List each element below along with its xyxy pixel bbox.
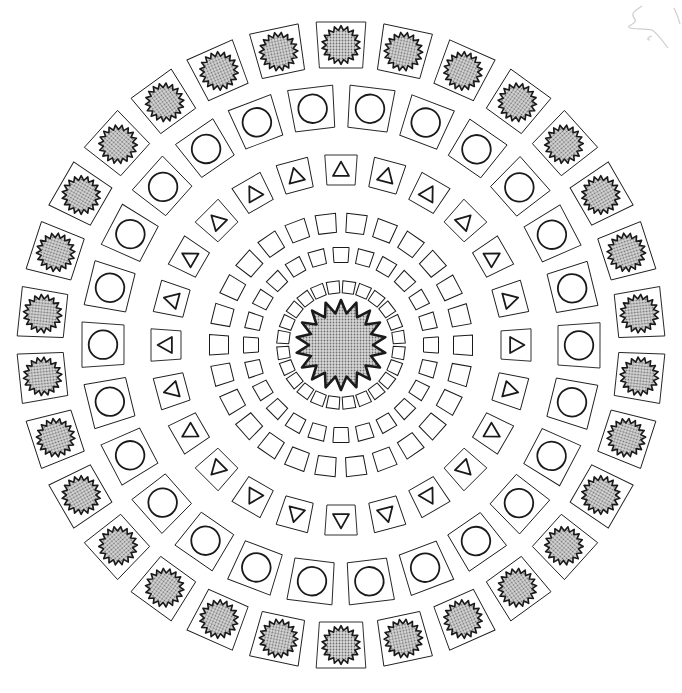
triangle-tile xyxy=(407,475,450,517)
square-tile xyxy=(448,304,471,328)
triangle-tile xyxy=(232,172,275,214)
triangle-tile xyxy=(471,411,513,454)
sun-tile xyxy=(374,24,432,79)
triangle-tile xyxy=(471,236,513,279)
square-tile xyxy=(418,412,446,440)
triangle-tile xyxy=(195,447,239,491)
square-tile xyxy=(279,315,295,332)
sun-tile xyxy=(49,162,114,228)
circle-tile xyxy=(288,85,338,132)
square-tile xyxy=(277,345,291,359)
square-tile xyxy=(245,312,264,332)
circle-tile xyxy=(546,375,598,429)
square-tile xyxy=(220,275,246,302)
circle-tile xyxy=(345,85,395,132)
circle-tile xyxy=(558,323,600,368)
square-tile xyxy=(355,283,372,299)
square-tile xyxy=(209,335,228,356)
sun-tile xyxy=(26,407,85,468)
circle-tile xyxy=(132,156,194,218)
circle-tile xyxy=(397,95,454,150)
circle-tile xyxy=(396,540,453,595)
sun-tile xyxy=(49,462,114,528)
sun-tile xyxy=(614,349,665,403)
square-tile xyxy=(387,359,403,376)
square-tile xyxy=(279,359,295,376)
square-tile xyxy=(285,218,311,243)
square-tile xyxy=(244,337,259,353)
sun-tile xyxy=(530,110,597,178)
square-tile xyxy=(436,388,462,415)
triangle-tile xyxy=(276,157,315,194)
square-tile xyxy=(419,359,438,379)
sun-tile xyxy=(484,69,551,135)
triangle-tile xyxy=(153,280,190,319)
circle-tile xyxy=(489,157,551,219)
square-tile xyxy=(396,432,424,459)
triangle-tile xyxy=(168,411,210,454)
circle-tile xyxy=(522,426,580,486)
circle-tile xyxy=(175,119,236,179)
square-tile xyxy=(375,412,397,433)
sun-tile xyxy=(131,69,198,135)
square-tile xyxy=(424,337,439,353)
square-tile xyxy=(326,396,340,410)
center-sun xyxy=(297,300,386,390)
circle-tile xyxy=(488,472,550,534)
circle-tile xyxy=(228,95,285,150)
circle-tile xyxy=(523,205,581,265)
sun-tile xyxy=(614,287,665,341)
sun-tile xyxy=(568,462,633,528)
sun-tile xyxy=(530,512,597,580)
square-tile xyxy=(277,330,291,344)
sun-tile xyxy=(250,611,308,666)
circle-tile xyxy=(101,204,159,264)
square-tile xyxy=(371,447,397,472)
sun-tile xyxy=(187,40,251,102)
square-tile xyxy=(408,379,429,401)
square-tile xyxy=(236,250,264,278)
square-tile xyxy=(375,257,397,278)
circle-tile xyxy=(82,322,124,367)
square-tile xyxy=(355,423,375,442)
square-tile xyxy=(419,250,447,278)
square-tile xyxy=(419,312,438,332)
square-tile xyxy=(285,446,311,471)
square-tile xyxy=(311,283,328,299)
square-tile xyxy=(453,335,472,356)
square-tile xyxy=(392,330,406,344)
triangle-tile xyxy=(501,329,531,361)
square-tile xyxy=(397,231,425,258)
sun-tile xyxy=(17,349,68,403)
triangle-tile xyxy=(443,447,487,491)
circle-tile xyxy=(287,558,337,605)
sun-tile xyxy=(84,512,151,580)
sun-tile xyxy=(250,24,308,79)
square-tile xyxy=(308,423,328,442)
square-tile xyxy=(341,396,355,410)
sun-tile xyxy=(17,287,68,341)
square-tile xyxy=(266,270,288,292)
square-tile xyxy=(341,281,355,295)
square-tile xyxy=(315,455,338,476)
circle-tile xyxy=(132,472,194,534)
triangle-tile xyxy=(443,199,487,243)
triangle-tile xyxy=(407,172,450,214)
circle-tile xyxy=(84,375,136,429)
triangle-tile xyxy=(325,155,357,185)
square-tile xyxy=(394,270,416,292)
circle-tile xyxy=(445,511,506,571)
square-tile xyxy=(258,231,286,258)
sun-tile xyxy=(597,407,656,468)
square-tile xyxy=(315,213,338,234)
square-tile xyxy=(326,281,340,295)
sun-tile xyxy=(431,40,495,102)
sun-tile xyxy=(316,622,366,668)
triangle-tile xyxy=(195,199,239,243)
square-tile xyxy=(436,275,462,302)
square-tile xyxy=(285,257,307,278)
square-tile xyxy=(220,388,246,415)
square-tile xyxy=(355,391,372,407)
sun-tile xyxy=(431,588,495,650)
circle-tile xyxy=(101,425,159,485)
